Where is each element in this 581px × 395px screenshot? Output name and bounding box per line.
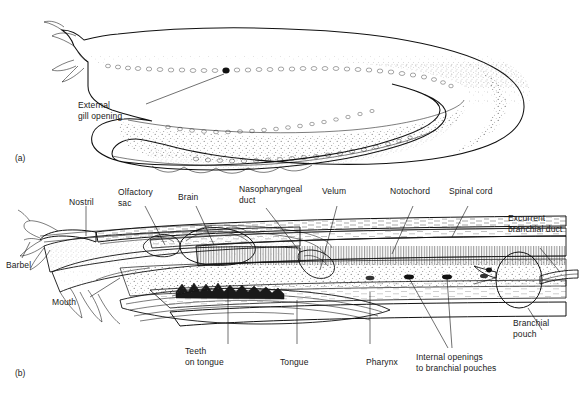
- label-spinal-cord: Spinal cord: [449, 186, 493, 197]
- label-mouth: Mouth: [52, 297, 76, 308]
- label-branchial-pouch: Branchialpouch: [513, 318, 549, 339]
- label-teeth-on-tongue: Teethon tongue: [185, 346, 224, 367]
- label-olfactory-sac: Olfactorysac: [118, 187, 153, 208]
- external-gill-opening-marker: [222, 68, 229, 74]
- panel-b-illustration: [18, 206, 578, 348]
- label-external-gill-opening: Externalgill opening: [78, 100, 122, 121]
- panel-a-illustration: [44, 21, 540, 173]
- label-tongue: Tongue: [280, 357, 309, 368]
- label-nasopharyngeal-duct: Nasopharyngealduct: [239, 184, 302, 205]
- label-internal-openings: Internal openingsto branchial pouches: [416, 352, 496, 373]
- panel-a-label: (a): [15, 153, 25, 163]
- label-barbel: Barbel: [6, 260, 31, 271]
- label-velum: Velum: [322, 186, 346, 197]
- hagfish-anatomy-figure: Externalgill opening (a) Nostril Olfacto…: [0, 0, 581, 395]
- label-nostril: Nostril: [69, 197, 94, 208]
- panel-b-label: (b): [15, 368, 25, 378]
- label-brain: Brain: [178, 192, 198, 203]
- label-pharynx: Pharynx: [366, 357, 398, 368]
- label-notochord: Notochord: [390, 186, 430, 197]
- label-excurrent-branchial-duct: Excurrentbranchial duct: [508, 213, 562, 234]
